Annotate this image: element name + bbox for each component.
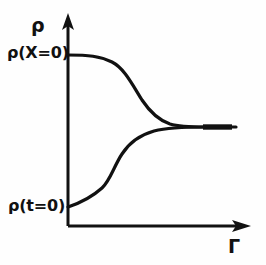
upper-curve-label: ρ(X=0) — [7, 45, 69, 61]
x-axis — [68, 220, 251, 232]
x-axis-label: Γ — [228, 237, 240, 256]
lower-curve-rho-t0 — [68, 127, 205, 207]
schematic-plot — [0, 0, 266, 265]
lower-curve-label: ρ(t=0) — [8, 198, 65, 214]
upper-curve-rho-x0 — [68, 55, 205, 127]
y-axis-label: ρ — [31, 16, 44, 35]
figure-container: ρ ρ(X=0) ρ(t=0) Γ — [0, 0, 266, 265]
